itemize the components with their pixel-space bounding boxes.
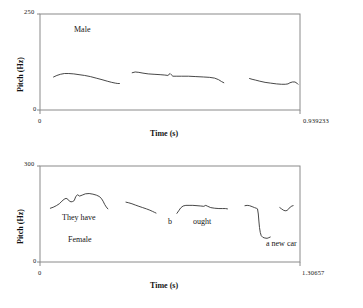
female-plot-canvas bbox=[0, 152, 363, 308]
female-x-min-tick-label: 0 bbox=[38, 270, 41, 277]
pitch-trace-segment-3 bbox=[250, 79, 298, 85]
female-x-axis-title: Time (s) bbox=[150, 282, 178, 290]
male-y-axis-title: Pitch (Hz) bbox=[16, 57, 25, 92]
pitch-trace-segment-1 bbox=[54, 74, 120, 84]
male-y-min-tick-label: 0 bbox=[33, 106, 36, 113]
male-pitch-chart: 250 0 0 0.939233 Pitch (Hz) Time (s) Mal… bbox=[0, 0, 363, 150]
male-x-axis-title: Time (s) bbox=[150, 130, 178, 138]
male-x-max-tick-label: 0.939233 bbox=[303, 118, 329, 125]
female-x-max-tick-label: 1.30657 bbox=[302, 270, 325, 277]
female-speaker-annotation: Female bbox=[68, 236, 92, 244]
female-utterance-b: b bbox=[168, 218, 172, 226]
male-x-min-tick-label: 0 bbox=[38, 118, 41, 125]
pitch-trace-segment-2 bbox=[132, 72, 224, 83]
pitch-trace-segment-5 bbox=[280, 206, 293, 211]
female-utterance-ought: ought bbox=[193, 218, 211, 226]
female-utterance-they-have: They have bbox=[62, 214, 96, 222]
female-y-max-tick-label: 300 bbox=[24, 161, 34, 168]
female-y-axis-title: Pitch (Hz) bbox=[16, 209, 25, 244]
pitch-trace-segment-4 bbox=[245, 205, 270, 238]
female-utterance-a-new-car: a new car bbox=[266, 240, 297, 248]
pitch-trace-segment-1 bbox=[50, 194, 108, 209]
female-pitch-chart: 300 0 0 1.30657 Pitch (Hz) Time (s) They… bbox=[0, 152, 363, 308]
male-plot-canvas bbox=[0, 0, 363, 150]
male-y-max-tick-label: 250 bbox=[24, 9, 34, 16]
female-y-min-tick-label: 0 bbox=[33, 258, 36, 265]
male-speaker-annotation: Male bbox=[74, 26, 90, 34]
pitch-trace-segment-2 bbox=[126, 202, 156, 213]
male-pitch-traces bbox=[54, 72, 298, 84]
pitch-trace-segment-3 bbox=[177, 205, 228, 213]
